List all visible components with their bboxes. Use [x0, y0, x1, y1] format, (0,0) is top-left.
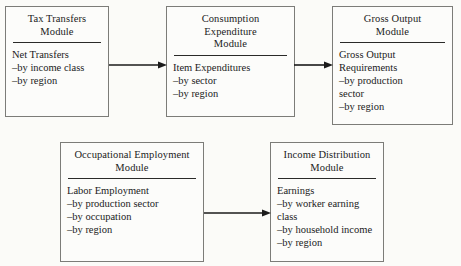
module-item-occupational-2: –by region: [67, 223, 198, 236]
arrow-right-icon-tax-to-consumption: [109, 60, 167, 70]
module-item-income-distribution-2: –by region: [277, 236, 378, 249]
module-title-gross-output: Gross Output Module: [333, 7, 452, 38]
module-item-gross-output-0: –by production sector: [339, 74, 447, 100]
module-item-occupational-0: –by production sector: [67, 197, 198, 210]
module-body-income-distribution: Earnings –by worker earning class –by ho…: [271, 179, 383, 249]
module-box-gross-output: Gross Output Module Gross Output Require…: [332, 6, 453, 125]
module-box-consumption: Consumption Expenditure Module Item Expe…: [166, 6, 295, 117]
module-item-occupational-1: –by occupation: [67, 210, 198, 223]
module-body-occupational: Labor Employment –by production sector –…: [61, 179, 203, 236]
module-item-gross-output-1: –by region: [339, 100, 447, 113]
module-item-consumption-0: –by sector: [173, 74, 289, 87]
arrow-right-icon-consumption-to-gross: [294, 60, 333, 70]
module-head-gross-output: Gross Output Requirements: [339, 48, 447, 74]
module-box-occupational: Occupational Employment Module Labor Emp…: [60, 142, 204, 262]
module-flow-diagram: Tax Transfers Module Net Transfers –by i…: [0, 0, 461, 266]
module-head-consumption: Item Expenditures: [173, 61, 289, 74]
module-head-occupational: Labor Employment: [67, 184, 198, 197]
module-head-income-distribution: Earnings: [277, 184, 378, 197]
module-title-income-distribution: Income Distribution Module: [271, 143, 383, 174]
module-item-income-distribution-1: –by household income: [277, 223, 378, 236]
module-head-tax-transfers: Net Transfers: [12, 48, 103, 61]
module-box-tax-transfers: Tax Transfers Module Net Transfers –by i…: [5, 6, 109, 117]
module-body-gross-output: Gross Output Requirements –by production…: [333, 43, 452, 113]
module-item-tax-transfers-0: –by income class: [12, 61, 103, 74]
module-item-income-distribution-0: –by worker earning class: [277, 197, 378, 223]
module-box-income-distribution: Income Distribution Module Earnings –by …: [270, 142, 384, 262]
module-body-tax-transfers: Net Transfers –by income class –by regio…: [6, 43, 108, 87]
module-body-consumption: Item Expenditures –by sector –by region: [167, 56, 294, 100]
module-title-tax-transfers: Tax Transfers Module: [6, 7, 108, 38]
module-title-occupational: Occupational Employment Module: [61, 143, 203, 174]
module-item-consumption-1: –by region: [173, 87, 289, 100]
module-title-consumption: Consumption Expenditure Module: [167, 7, 294, 51]
module-item-tax-transfers-1: –by region: [12, 74, 103, 87]
arrow-right-icon-occupational-to-income: [204, 208, 271, 218]
